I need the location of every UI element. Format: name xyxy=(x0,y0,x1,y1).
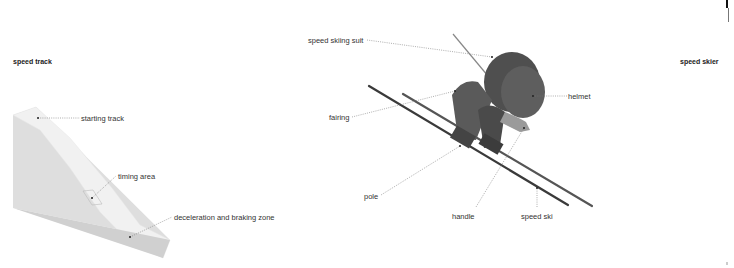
label-helmet: helmet xyxy=(568,92,591,101)
label-handle: handle xyxy=(452,212,475,221)
label-fairing: fairing xyxy=(329,113,349,122)
helmet-shape xyxy=(501,66,545,118)
speed-track-illustration xyxy=(13,107,170,258)
label-speed-ski: speed ski xyxy=(521,212,553,221)
label-timing-area: timing area xyxy=(118,172,155,181)
label-starting-track: starting track xyxy=(81,114,124,123)
speed-skier-illustration xyxy=(369,34,592,206)
label-pole: pole xyxy=(364,192,378,201)
page-footer-mark xyxy=(726,262,728,265)
illustration-canvas xyxy=(0,0,734,268)
page-corner-tab xyxy=(726,0,728,8)
page-corner-line xyxy=(728,8,729,22)
label-deceleration-zone: deceleration and braking zone xyxy=(174,213,275,222)
speed-skier-title: speed skier xyxy=(680,58,719,65)
label-speed-skiing-suit: speed skiing suit xyxy=(308,36,363,45)
speed-track-title: speed track xyxy=(13,58,52,65)
